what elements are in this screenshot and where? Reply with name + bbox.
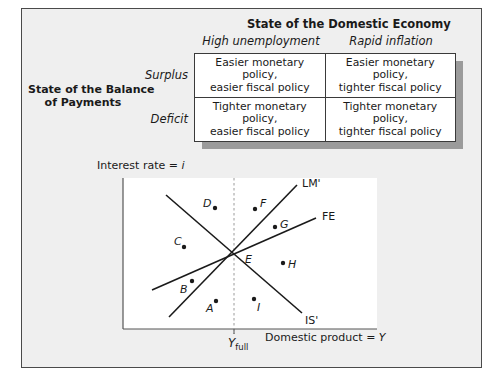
point-h-dot: [281, 261, 285, 265]
point-h-label: H: [288, 258, 296, 271]
point-d-dot: [213, 206, 217, 210]
point-g-label: G: [280, 218, 289, 231]
point-f-label: F: [260, 197, 266, 210]
x-axis-label: Domestic product = Y: [265, 331, 386, 344]
x-axis-label-text: Domestic product =: [265, 331, 379, 344]
lm-curve-label: LM': [302, 177, 321, 190]
y-full-tick-label: Yfull: [228, 336, 248, 352]
point-g-dot: [273, 225, 277, 229]
point-a-dot: [214, 299, 218, 303]
point-a-label: A: [206, 302, 214, 315]
point-d-label: D: [203, 197, 211, 210]
point-c-label: C: [174, 235, 182, 248]
point-b-dot: [190, 279, 194, 283]
point-c-dot: [182, 245, 186, 249]
point-e-label: E: [245, 253, 252, 266]
point-f-dot: [253, 207, 257, 211]
point-i-label: I: [257, 301, 260, 314]
point-b-label: B: [180, 283, 188, 296]
is-curve-label: IS': [305, 314, 318, 327]
fe-curve-label: FE: [322, 210, 335, 223]
x-axis-variable: Y: [379, 331, 386, 344]
point-i-dot: [252, 297, 256, 301]
y-full-subscript: full: [235, 342, 248, 352]
